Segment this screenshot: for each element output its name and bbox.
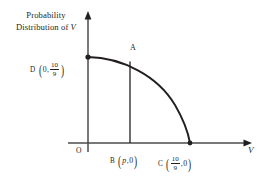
point-label-c-name: C xyxy=(158,160,163,168)
point-label-b-name: B xyxy=(110,157,115,165)
point-label-d-coords: 0,109 xyxy=(43,62,60,78)
point-label-d-y-den: 9 xyxy=(53,70,57,78)
chart-title: Probability Distribution of V xyxy=(6,10,86,33)
point-label-d-name: D xyxy=(30,66,35,74)
point-marker-D xyxy=(85,54,90,59)
chart-title-line-2: Distribution of V xyxy=(6,22,86,34)
x-axis-label: V xyxy=(248,146,254,155)
point-label-b-y: 0 xyxy=(129,156,133,165)
comma-d: , xyxy=(47,65,49,74)
fraction-c-x: 109 xyxy=(171,156,180,172)
x-axis xyxy=(68,139,252,146)
point-label-c: C ( 109,0 ) xyxy=(158,156,192,172)
point-marker-C xyxy=(188,141,193,146)
point-label-b-x: p xyxy=(122,156,126,165)
chart-title-prefix: Distribution of xyxy=(16,22,71,32)
fraction-d-y: 109 xyxy=(50,62,59,78)
point-label-c-y: 0 xyxy=(183,159,187,168)
point-label-b: B ( p,0 ) xyxy=(110,156,138,165)
point-label-c-coords: 109,0 xyxy=(170,156,187,172)
chart-title-variable: V xyxy=(71,22,76,32)
point-label-d-x: 0 xyxy=(43,65,47,74)
point-label-b-coords: p,0 xyxy=(122,156,133,165)
point-label-d: D ( 0,109 ) xyxy=(30,62,65,78)
distribution-curve xyxy=(88,57,190,143)
point-label-a: A xyxy=(130,44,136,52)
origin-label: O xyxy=(76,147,81,155)
point-label-c-x-den: 9 xyxy=(174,164,178,172)
chart-title-line-1: Probability xyxy=(6,10,86,22)
